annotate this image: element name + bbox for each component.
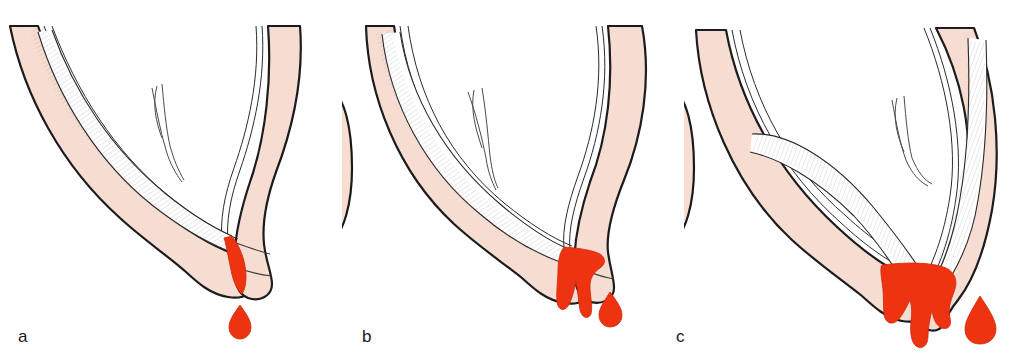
tubal-strand-a	[152, 84, 184, 182]
panel-b-moderate-bleeding: b	[342, 0, 685, 359]
panel-label-b: b	[362, 328, 371, 345]
tubal-strand-c	[892, 96, 932, 186]
tubal-strand-b	[468, 88, 498, 190]
blood-stream-c	[881, 263, 956, 348]
adjacent-panel-edge-b	[342, 88, 352, 244]
panel-label-a: a	[18, 328, 27, 345]
bleeding-severity-figure: a	[0, 0, 1027, 359]
blood-drop-a-1	[229, 305, 251, 339]
adjacent-panel-edge-c	[684, 88, 694, 244]
panel-label-c: c	[676, 328, 685, 345]
panel-c-heavy-bleeding: c	[684, 0, 1027, 359]
blood-drop-c-1	[965, 296, 996, 344]
myometrium-posterior-wall-a	[234, 26, 301, 299]
panel-a-slight-bleeding: a	[0, 0, 343, 359]
